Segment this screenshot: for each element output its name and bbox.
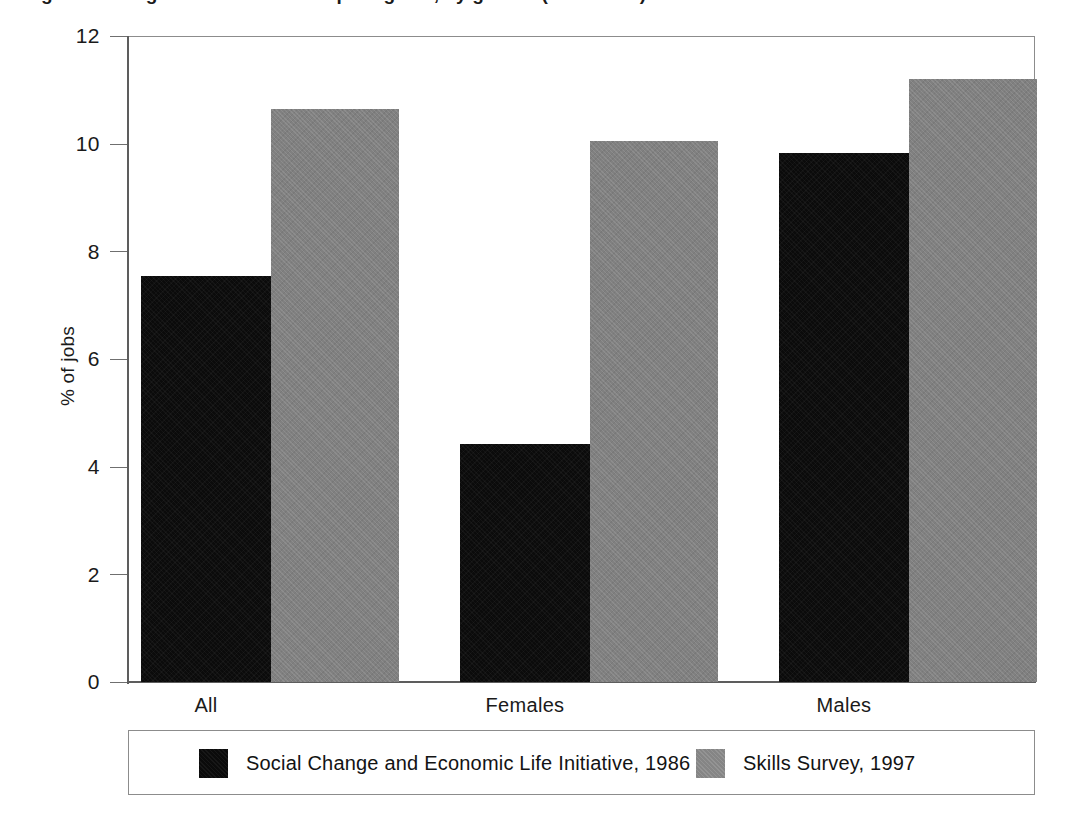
legend-label-sceli-1986: Social Change and Economic Life Initiati… [246,752,690,775]
bar-females-skills-1997 [590,141,718,682]
y-tick-mark-8 [110,251,128,252]
y-tick-label-4: 4 [16,456,100,477]
y-tick-mark-2 [110,574,128,575]
y-tick-mark-4 [110,467,128,468]
legend-label-skills-1997: Skills Survey, 1997 [743,752,915,775]
y-tick-mark-10 [110,144,128,145]
bar-all-skills-1997 [271,109,399,682]
x-tick-label-females: Females [460,694,590,717]
y-tick-label-12: 12 [16,25,100,46]
y-tick-mark-0 [110,682,128,683]
legend-entry-sceli-1986[interactable]: Social Change and Economic Life Initiati… [199,749,690,778]
y-axis-title: % of jobs [57,286,79,446]
x-tick-label-all: All [141,694,271,717]
bars-layer [128,36,1035,682]
bar-chart-figure: 12 10 8 6 4 2 0 % of jobs [0,0,1091,821]
y-tick-mark-12 [110,36,128,37]
legend-entry-skills-1997[interactable]: Skills Survey, 1997 [696,749,915,778]
bar-males-sceli-1986 [779,153,909,682]
x-tick-label-males: Males [779,694,909,717]
bar-females-sceli-1986 [460,444,590,682]
y-tick-label-2: 2 [16,564,100,585]
legend: Social Change and Economic Life Initiati… [128,730,1035,795]
legend-swatch-black [199,749,228,778]
y-tick-label-10: 10 [16,133,100,154]
y-tick-mark-6 [110,359,128,360]
legend-swatch-gray [696,749,725,778]
bar-all-sceli-1986 [141,276,271,682]
y-tick-label-0: 0 [16,671,100,692]
bar-males-skills-1997 [909,79,1037,682]
y-tick-label-8: 8 [16,241,100,262]
